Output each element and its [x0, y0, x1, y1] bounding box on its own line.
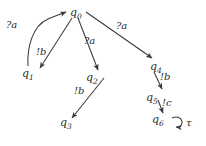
state-node-q2: q2 [86, 72, 98, 86]
state-name: q [70, 6, 77, 19]
state-name: q [86, 71, 93, 84]
transition-label-q0-q1: !b [36, 47, 46, 57]
state-node-q6: q6 [152, 114, 164, 128]
edge-q0-q1 [40, 18, 72, 68]
state-node-q1: q1 [22, 68, 34, 82]
state-index: 2 [93, 77, 98, 86]
transition-label-q0-q4: ?a [116, 21, 127, 31]
transition-label-q5-q6: !c [162, 98, 172, 108]
state-name: q [60, 116, 67, 129]
state-name: q [22, 67, 29, 80]
transition-label-q6-self-loop: τ [186, 118, 192, 128]
state-index: 6 [159, 119, 164, 128]
state-node-q5: q5 [146, 92, 158, 106]
transition-label-q4-q5: !b [160, 72, 170, 82]
transition-label-q2-q3: !b [74, 86, 84, 96]
state-name: q [152, 113, 159, 126]
state-name: q [150, 60, 157, 73]
state-node-q3: q3 [60, 117, 72, 131]
edge-q6-self-loop [172, 117, 182, 127]
state-index: 3 [67, 122, 72, 131]
state-node-q0: q0 [70, 7, 82, 21]
edge-q0-q4 [86, 12, 152, 58]
state-index: 5 [153, 97, 158, 106]
transition-label-entry-q0: ?a [6, 20, 17, 30]
state-name: q [146, 91, 153, 104]
state-index: 1 [29, 73, 34, 82]
automaton-diagram: q0 q1 q2 q3 q4 q5 q6 ?a !b ?a ?a !b !b !… [0, 0, 206, 146]
transition-label-q0-q2: ?a [84, 36, 95, 46]
state-index: 0 [77, 12, 82, 21]
